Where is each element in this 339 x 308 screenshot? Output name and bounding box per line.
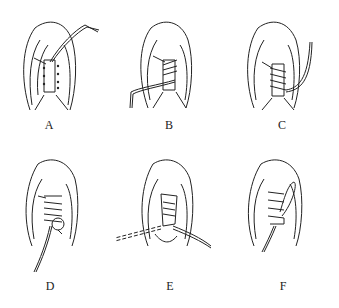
label-f: F [280, 279, 287, 294]
panel-e: E [113, 154, 226, 308]
panel-a: A [0, 0, 113, 154]
label-d: D [46, 279, 55, 294]
panel-b: B [113, 0, 226, 154]
panel-f: F [226, 154, 339, 308]
panel-d: D [0, 154, 113, 308]
shoe-drawing-a [0, 0, 113, 154]
label-c: C [278, 118, 286, 133]
label-b: B [165, 118, 173, 133]
panel-c: C [226, 0, 339, 154]
label-a: A [45, 118, 54, 133]
label-e: E [166, 279, 173, 294]
shoe-drawing-d [0, 154, 113, 308]
